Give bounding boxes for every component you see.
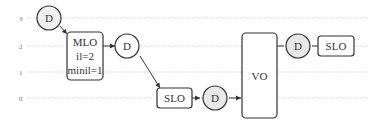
node-label: D (294, 40, 302, 52)
tick-label-0: 0 (19, 95, 23, 103)
tick-label-2: 2 (19, 43, 23, 51)
node-label: D (211, 92, 219, 104)
node-label: VO (252, 70, 268, 82)
node-vo: VO (242, 33, 277, 118)
diagram-canvas: 3 2 1 0 D MLO il=2 minil=1 D SLO D (0, 0, 387, 124)
mlo-title: MLO (73, 36, 98, 48)
node-d-mid: D (115, 34, 139, 58)
node-slo-right: SLO (318, 36, 354, 56)
node-label: SLO (326, 40, 347, 52)
node-d-low: D (203, 86, 227, 110)
node-label: D (123, 40, 131, 52)
node-mlo: MLO il=2 minil=1 (67, 32, 103, 80)
tick-label-1: 1 (19, 69, 23, 77)
mlo-minil: minil=1 (68, 64, 103, 76)
node-d-right: D (286, 34, 310, 58)
node-slo-low: SLO (157, 88, 192, 108)
tick-label-3: 3 (19, 15, 23, 23)
mlo-il: il=2 (76, 50, 94, 62)
node-label: D (45, 12, 53, 24)
node-label: SLO (164, 92, 185, 104)
edge-d-top-to-mlo (60, 26, 67, 34)
node-d-top: D (37, 6, 61, 30)
y-axis: 3 2 1 0 (19, 15, 23, 103)
